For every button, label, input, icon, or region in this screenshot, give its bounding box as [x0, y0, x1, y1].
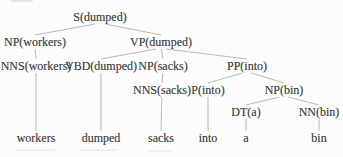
tree-node-np-sacks: NP(sacks): [138, 60, 187, 72]
scan-artifact-bottom-1: [16, 149, 55, 151]
scan-artifact-bottom-3: [147, 150, 173, 152]
tree-leaf-word-bin: bin: [311, 132, 326, 144]
tree-node-vbd: VBD(dumped): [65, 60, 137, 72]
scan-artifact-bottom-2: [79, 149, 117, 151]
tree-nodes-layer: S(dumped)NP(workers)VP(dumped)NNS(worker…: [0, 0, 343, 157]
tree-leaf-word-a: a: [243, 132, 248, 144]
tree-node-np-bin: NP(bin): [265, 84, 304, 96]
tree-node-nns-workers: NNS(workers): [1, 60, 72, 72]
tree-node-nns-sacks: NNS(sacks): [133, 84, 191, 96]
tree-node-p: P(into): [191, 84, 224, 96]
tree-node-s: S(dumped): [73, 11, 126, 23]
tree-leaf-word-sacks: sacks: [148, 132, 174, 144]
tree-node-nn: NN(bin): [299, 106, 340, 118]
tree-node-np-workers: NP(workers): [4, 36, 66, 48]
tree-node-pp: PP(into): [227, 60, 267, 72]
parse-tree-figure: { "figure": { "colors": { "background": …: [0, 0, 343, 157]
scan-artifact-top-left: [11, 0, 33, 2]
tree-leaf-word-workers: workers: [17, 132, 56, 144]
tree-leaf-word-into: into: [199, 132, 218, 144]
tree-node-dt: DT(a): [231, 106, 260, 118]
tree-leaf-word-dumped: dumped: [82, 132, 121, 144]
tree-node-vp: VP(dumped): [130, 36, 192, 48]
